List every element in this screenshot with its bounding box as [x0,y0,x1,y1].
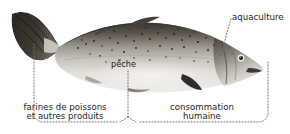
salmon-utilisation-figure: aquaculture pêche farines de poissons et… [0,0,290,134]
eye-pupil [239,56,243,60]
caudal-fin [11,10,60,61]
callout-label-peche: pêche [111,60,136,69]
callout-label-aquaculture: aquaculture [232,13,284,22]
callout-label-farines-de-poissons: farines de poissons et autres produits [13,103,117,122]
farines-line-2: et autres produits [13,112,117,121]
fish-head [213,38,262,86]
callout-label-consommation-humaine: consommation humaine [150,103,254,122]
consommation-line-2: humaine [150,112,254,121]
